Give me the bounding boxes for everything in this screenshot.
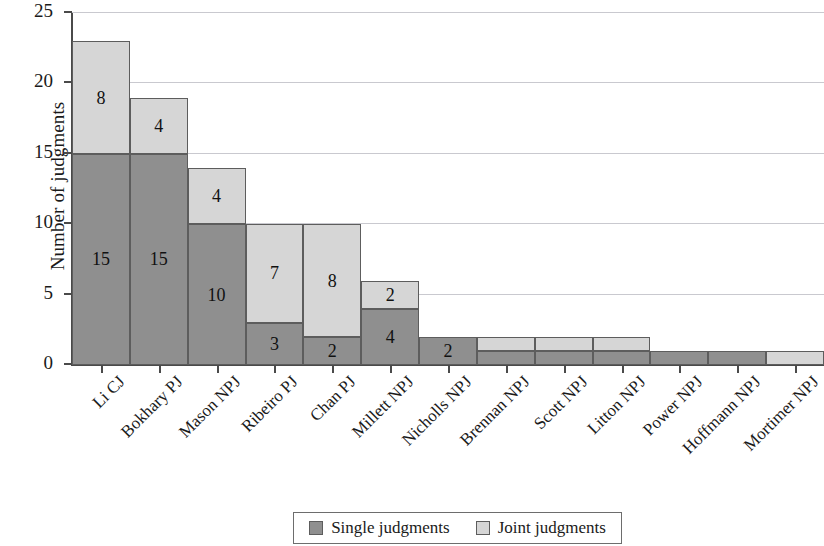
bar-value-label: 8 bbox=[328, 272, 337, 290]
bar-segment-joint[interactable]: 8 bbox=[303, 224, 361, 337]
bar-value-label: 15 bbox=[150, 250, 168, 268]
y-tick-label: 20 bbox=[34, 70, 53, 92]
x-axis-label: Ribeiro PJ bbox=[238, 372, 303, 437]
legend-entry[interactable]: Single judgments bbox=[309, 518, 450, 538]
bar-segment-single[interactable]: 2 bbox=[419, 337, 477, 365]
bar-segment-single[interactable]: 2 bbox=[303, 337, 361, 365]
bar-group[interactable] bbox=[708, 13, 766, 365]
legend-entry[interactable]: Joint judgments bbox=[476, 518, 606, 538]
y-tick-mark: 20 bbox=[64, 81, 72, 83]
bar-group[interactable] bbox=[535, 13, 593, 365]
bar-value-label: 2 bbox=[386, 286, 395, 304]
x-tick-mark bbox=[679, 366, 681, 373]
bar-value-label: 4 bbox=[154, 117, 163, 135]
bar-group[interactable]: 42 bbox=[361, 13, 419, 365]
bar-value-label: 8 bbox=[96, 89, 105, 107]
bar-segment-joint[interactable]: 4 bbox=[130, 98, 188, 154]
x-axis-label: Li CJ bbox=[89, 372, 130, 413]
bar-value-label: 2 bbox=[328, 342, 337, 360]
bar-segment-single[interactable]: 3 bbox=[246, 323, 304, 365]
bar-segment-single[interactable] bbox=[477, 351, 535, 365]
bar-group[interactable] bbox=[593, 13, 651, 365]
bar-group[interactable] bbox=[477, 13, 535, 365]
stacked-bar-chart: Number of judgments 0510152025 158154104… bbox=[0, 0, 824, 546]
y-tick-mark: 5 bbox=[64, 293, 72, 295]
bar-segment-single[interactable] bbox=[708, 351, 766, 365]
x-axis-label: Bokhary PJ bbox=[117, 372, 187, 442]
bar-value-label: 2 bbox=[443, 342, 452, 360]
x-tick-mark bbox=[332, 366, 334, 373]
legend-swatch bbox=[476, 521, 490, 535]
y-tick-label: 25 bbox=[34, 0, 53, 22]
x-tick-mark bbox=[390, 366, 392, 373]
x-tick-mark bbox=[795, 366, 797, 373]
x-tick-mark bbox=[737, 366, 739, 373]
bar-value-label: 4 bbox=[386, 328, 395, 346]
bar-value-label: 10 bbox=[208, 286, 226, 304]
bar-group[interactable]: 2 bbox=[419, 13, 477, 365]
bar-segment-joint[interactable]: 7 bbox=[246, 224, 304, 323]
x-tick-mark bbox=[217, 366, 219, 373]
x-tick-mark bbox=[448, 366, 450, 373]
y-tick-label: 0 bbox=[44, 352, 54, 374]
y-tick-label: 10 bbox=[34, 211, 53, 233]
bar-group[interactable] bbox=[766, 13, 824, 365]
x-tick-mark bbox=[622, 366, 624, 373]
bar-segment-joint[interactable] bbox=[477, 337, 535, 351]
chart-legend: Single judgmentsJoint judgments bbox=[293, 512, 622, 544]
bar-group[interactable]: 104 bbox=[188, 13, 246, 365]
x-axis-label: Mason NPJ bbox=[175, 372, 245, 442]
bar-segment-joint[interactable]: 8 bbox=[72, 41, 130, 154]
y-tick-mark: 15 bbox=[64, 152, 72, 154]
y-tick-label: 15 bbox=[34, 140, 53, 162]
bar-value-label: 4 bbox=[212, 187, 221, 205]
x-axis-label: Scott NPJ bbox=[530, 372, 592, 434]
bar-group[interactable]: 28 bbox=[303, 13, 361, 365]
plot-area: 0510152025 1581541043728422 bbox=[72, 13, 824, 365]
bar-segment-joint[interactable]: 4 bbox=[188, 168, 246, 224]
bar-value-label: 15 bbox=[92, 250, 110, 268]
bar-group[interactable] bbox=[650, 13, 708, 365]
bar-segment-joint[interactable] bbox=[593, 337, 651, 351]
x-tick-mark bbox=[101, 366, 103, 373]
bar-segment-single[interactable] bbox=[593, 351, 651, 365]
bar-segment-single[interactable]: 15 bbox=[72, 154, 130, 365]
y-tick-mark: 10 bbox=[64, 222, 72, 224]
bar-segment-single[interactable] bbox=[650, 351, 708, 365]
bar-group[interactable]: 154 bbox=[130, 13, 188, 365]
legend-swatch bbox=[309, 521, 323, 535]
bar-group[interactable]: 158 bbox=[72, 13, 130, 365]
x-axis-label: Litton NPJ bbox=[583, 372, 650, 439]
bar-segment-single[interactable]: 10 bbox=[188, 224, 246, 365]
bar-value-label: 3 bbox=[270, 335, 279, 353]
bar-segment-single[interactable]: 4 bbox=[361, 309, 419, 365]
bar-segment-joint[interactable]: 2 bbox=[361, 281, 419, 309]
bar-group[interactable]: 37 bbox=[246, 13, 304, 365]
x-tick-mark bbox=[159, 366, 161, 373]
bar-segment-joint[interactable] bbox=[535, 337, 593, 351]
y-tick-label: 5 bbox=[44, 281, 54, 303]
x-tick-mark bbox=[564, 366, 566, 373]
x-tick-mark bbox=[506, 366, 508, 373]
x-tick-mark bbox=[274, 366, 276, 373]
x-axis-label: Chan PJ bbox=[307, 372, 361, 426]
bar-value-label: 7 bbox=[270, 264, 279, 282]
bar-segment-joint[interactable] bbox=[766, 351, 824, 365]
bar-segment-single[interactable]: 15 bbox=[130, 154, 188, 365]
legend-label: Single judgments bbox=[331, 518, 450, 538]
y-tick-mark: 25 bbox=[64, 11, 72, 13]
legend-label: Joint judgments bbox=[498, 518, 606, 538]
y-tick-mark: 0 bbox=[64, 363, 72, 365]
bar-segment-single[interactable] bbox=[535, 351, 593, 365]
